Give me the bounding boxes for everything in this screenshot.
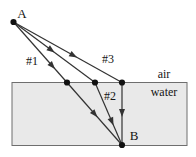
refraction-point-2-dot <box>92 79 98 85</box>
label-ray3: #3 <box>102 53 114 65</box>
ray-1-air-segment <box>14 22 68 83</box>
point-a-dot <box>10 19 16 25</box>
refraction-ray-diagram: A #1 #3 #2 air water B <box>0 0 196 157</box>
arrowhead-icon <box>69 51 79 60</box>
label-ray1: #1 <box>26 55 38 67</box>
label-medium-top: air <box>158 68 171 80</box>
label-receiver: B <box>130 129 139 142</box>
refraction-point-3-dot <box>119 79 125 85</box>
label-source: A <box>17 7 26 20</box>
point-b-dot <box>119 142 125 148</box>
arrowhead-icon <box>46 45 56 55</box>
label-ray2: #2 <box>104 90 116 102</box>
label-medium-bottom: water <box>151 86 178 98</box>
refraction-point-1-dot <box>64 79 70 85</box>
